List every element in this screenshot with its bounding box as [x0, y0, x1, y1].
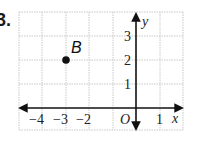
y-tick-1: 1 — [124, 77, 131, 92]
y-tick-3: 3 — [124, 29, 131, 44]
x-tick-1: 1 — [156, 112, 163, 127]
x-axis-label: x — [171, 111, 179, 126]
x-tick-neg4: −4 — [29, 112, 44, 127]
point-b-marker — [62, 56, 70, 64]
x-tick-neg2: −2 — [76, 112, 91, 127]
point-b-label: B — [71, 39, 82, 56]
coordinate-plane: y x 3 2 1 −4 −3 −2 1 O B — [0, 0, 198, 144]
y-tick-2: 2 — [124, 53, 131, 68]
origin-label: O — [120, 112, 130, 127]
x-tick-neg3: −3 — [53, 112, 68, 127]
y-axis-label: y — [140, 14, 149, 29]
